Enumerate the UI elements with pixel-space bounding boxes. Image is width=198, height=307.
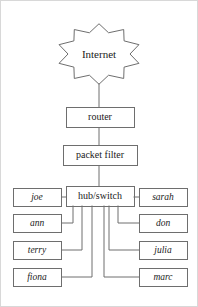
chain-nodes: routerpacket filterhub/switch xyxy=(64,108,138,207)
node-label-router: router xyxy=(88,111,113,122)
network-diagram-canvas: Internet routerpacket filterhub/switch j… xyxy=(0,0,198,307)
node-label-sarah: sarah xyxy=(152,192,174,202)
network-diagram: Internet routerpacket filterhub/switch j… xyxy=(0,0,198,307)
internet-label: Internet xyxy=(82,48,116,60)
left-host-links xyxy=(61,197,92,277)
node-label-marc: marc xyxy=(153,272,173,282)
link-hub-to-fiona xyxy=(61,206,92,277)
link-hub-to-terry xyxy=(61,206,82,250)
node-label-fiona: fiona xyxy=(27,272,47,282)
link-hub-to-don xyxy=(118,206,139,223)
link-hub-to-julia xyxy=(109,206,139,250)
link-hub-to-ann xyxy=(61,206,73,223)
right-host-nodes: sarahdonjuliamarc xyxy=(140,189,188,287)
node-label-don: don xyxy=(156,218,171,228)
node-label-julia: julia xyxy=(152,245,172,255)
node-label-joe: joe xyxy=(29,192,43,202)
left-host-nodes: joeannterryfiona xyxy=(14,189,62,287)
node-label-packet-filter: packet filter xyxy=(76,149,125,160)
node-label-ann: ann xyxy=(30,218,45,228)
node-label-terry: terry xyxy=(28,245,47,255)
node-label-hub-switch: hub/switch xyxy=(78,190,122,201)
right-host-links xyxy=(104,197,139,277)
internet-cloud-group: Internet xyxy=(59,24,139,84)
